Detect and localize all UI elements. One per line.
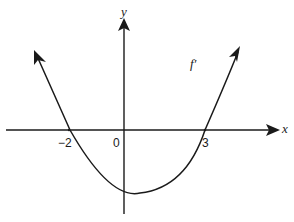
tick-label-three: 3 [202,137,209,149]
curve-label-f-prime: f′ [190,57,196,70]
tick-label-zero: 0 [113,137,120,149]
tick-label-neg-two: −2 [58,137,72,149]
graph-figure: y x f′ −2 0 3 [0,0,294,222]
curve-f-prime [37,52,238,194]
graph-canvas [0,0,294,222]
y-axis-label: y [121,5,127,18]
intercept-neg-two-marker [68,129,70,131]
x-axis-label: x [282,122,288,135]
intercept-three-marker [204,129,206,131]
